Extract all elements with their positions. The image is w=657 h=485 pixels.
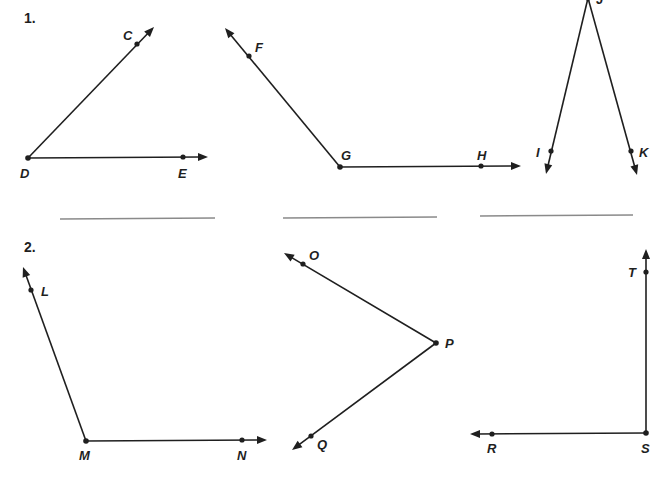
angles-worksheet-diagram: 1.CEDFHGIKJ2.LNMOQPTRS — [0, 0, 657, 485]
ray-ST: T — [628, 249, 650, 433]
point-label-C: C — [123, 28, 133, 43]
vertex-G — [337, 164, 343, 170]
arrowhead-icon — [511, 162, 521, 170]
ray-PQ: Q — [292, 343, 436, 452]
angle-OPQ: OQP — [284, 248, 454, 452]
ray-GH: H — [340, 148, 521, 170]
vertex-label-P: P — [445, 336, 454, 351]
vertex-label-G: G — [341, 148, 351, 163]
vertex-label-D: D — [20, 166, 30, 181]
ray-DE: E — [28, 153, 208, 181]
vertex-label-J: J — [596, 0, 604, 7]
point-label-O: O — [309, 248, 319, 263]
vertex-J — [585, 0, 591, 1]
answer-blank-3[interactable] — [480, 215, 633, 216]
angle-CDE: CED — [20, 27, 208, 181]
problem-2: 2.LNMOQPTRS — [23, 239, 650, 463]
ray-MN: N — [86, 436, 267, 463]
point-label-R: R — [487, 441, 497, 456]
answer-blank-1[interactable] — [60, 218, 215, 219]
angle-LMN: LNM — [23, 267, 267, 463]
point-O — [300, 261, 305, 266]
arrowhead-icon — [642, 249, 650, 259]
point-L — [28, 287, 33, 292]
arrowhead-icon — [292, 441, 302, 450]
problem-number: 2. — [24, 239, 36, 255]
ray-DC: C — [28, 27, 154, 158]
point-label-F: F — [255, 40, 264, 55]
point-label-K: K — [639, 145, 650, 160]
arrowhead-icon — [544, 163, 552, 174]
vertex-M — [83, 438, 89, 444]
point-N — [239, 437, 244, 442]
point-label-N: N — [237, 448, 247, 463]
point-T — [643, 269, 648, 274]
answer-blank-2[interactable] — [283, 217, 437, 218]
problem-number: 1. — [24, 10, 36, 26]
point-label-E: E — [178, 166, 187, 181]
point-label-Q: Q — [317, 437, 327, 452]
ray-JI: I — [536, 0, 588, 174]
point-F — [246, 53, 251, 58]
ray-JK: K — [588, 0, 650, 175]
angle-RST: TRS — [470, 249, 650, 456]
point-H — [478, 163, 483, 168]
point-I — [548, 148, 553, 153]
arrowhead-icon — [470, 430, 480, 438]
point-label-L: L — [41, 284, 49, 299]
point-label-H: H — [477, 148, 487, 163]
ray-ML: L — [23, 267, 86, 441]
arrowhead-icon — [198, 153, 208, 161]
ray-PO: O — [284, 248, 436, 343]
ray-GF: F — [225, 28, 340, 167]
point-label-T: T — [628, 265, 637, 280]
point-E — [180, 154, 185, 159]
point-R — [489, 431, 494, 436]
vertex-label-S: S — [641, 441, 650, 456]
point-Q — [308, 433, 313, 438]
arrowhead-icon — [630, 164, 638, 175]
vertex-S — [643, 430, 649, 436]
angle-FGH: FHG — [225, 28, 521, 170]
arrowhead-icon — [257, 436, 267, 444]
point-K — [628, 148, 633, 153]
point-C — [134, 41, 139, 46]
arrowhead-icon — [23, 267, 31, 278]
problem-1: 1.CEDFHGIKJ — [20, 0, 650, 219]
vertex-D — [25, 155, 31, 161]
ray-SR: R — [470, 430, 646, 456]
point-label-I: I — [536, 145, 540, 160]
angle-IJK: IKJ — [536, 0, 650, 175]
arrowhead-icon — [284, 253, 295, 262]
vertex-label-M: M — [79, 448, 91, 463]
vertex-P — [433, 340, 439, 346]
